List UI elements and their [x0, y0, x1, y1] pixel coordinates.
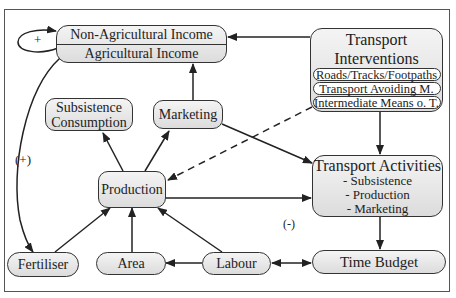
subsistence-line2: Consumption: [51, 115, 126, 130]
edge-fertiliser-production: [55, 208, 110, 252]
node-production: Production: [98, 171, 166, 208]
label-negative: (-): [283, 217, 295, 232]
label-self-loop: +: [34, 32, 41, 48]
node-non-agricultural-income: Non-Agricultural Income: [57, 26, 226, 44]
subsistence-line1: Subsistence: [56, 100, 122, 115]
edge-production-marketing: [145, 131, 169, 171]
label-positive: (+): [15, 152, 31, 168]
node-area: Area: [96, 252, 166, 275]
intervention-roads: Roads/Tracks/Footpaths: [313, 68, 441, 81]
node-time-budget: Time Budget: [312, 250, 446, 274]
transport-interventions-title-2: Interventions: [334, 50, 418, 67]
transport-activities-title: Transport Activities: [314, 157, 441, 174]
intervention-transport-avoiding: Transport Avoiding M.: [313, 82, 441, 95]
node-agricultural-income: Agricultural Income: [57, 44, 226, 63]
node-transport-activities: Transport Activities - Subsistence - Pro…: [312, 155, 443, 217]
edge-production-subsistence: [103, 133, 123, 171]
transport-interventions-title-1: Transport: [346, 31, 408, 48]
activity-subsistence: - Subsistence: [343, 174, 412, 188]
intervention-intermediate-means: Intermediate Means o. T.: [313, 96, 441, 109]
node-fertiliser: Fertiliser: [7, 252, 79, 277]
activity-marketing: - Marketing: [347, 202, 409, 216]
node-income: Non-Agricultural Income Agricultural Inc…: [56, 25, 227, 63]
node-subsistence-consumption: Subsistence Consumption: [45, 98, 133, 131]
activity-production: - Production: [345, 188, 410, 202]
edge-labour-production: [158, 208, 222, 252]
node-labour: Labour: [202, 252, 271, 275]
node-transport-interventions: Transport Interventions Roads/Tracks/Foo…: [310, 28, 443, 112]
node-marketing: Marketing: [153, 100, 223, 129]
